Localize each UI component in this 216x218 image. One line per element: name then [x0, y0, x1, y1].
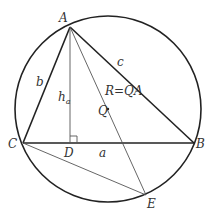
- label-a: a: [99, 146, 106, 160]
- label-R: R=QA: [104, 84, 143, 98]
- label-A: A: [58, 11, 68, 25]
- right-angle-mark: [70, 136, 77, 143]
- label-E: E: [146, 197, 156, 211]
- label-h: ha: [58, 90, 71, 106]
- chord-CE: [23, 143, 146, 195]
- label-C: C: [8, 137, 17, 151]
- diameter-AE: [70, 27, 146, 195]
- side-b: [23, 27, 70, 143]
- circumcircle-diagram: A B C D E Q b c a ha R=QA: [0, 0, 216, 218]
- label-Q: Q: [98, 104, 108, 118]
- label-D: D: [63, 146, 74, 160]
- label-b: b: [36, 75, 44, 89]
- label-B: B: [195, 137, 205, 151]
- label-c: c: [117, 55, 124, 69]
